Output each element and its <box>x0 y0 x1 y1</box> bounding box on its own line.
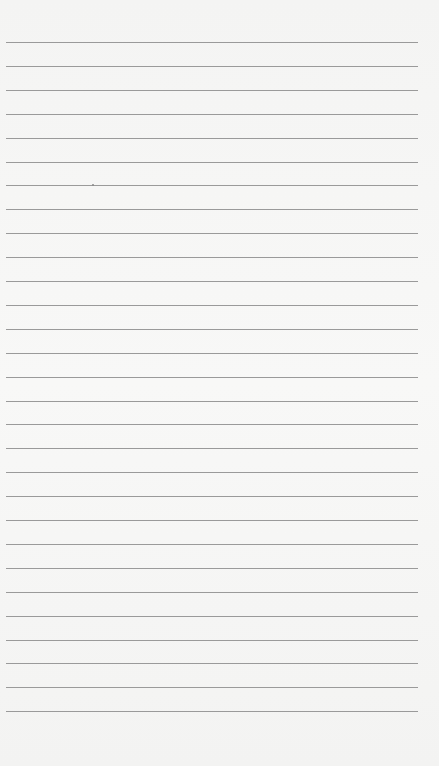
ruled-line <box>6 520 418 521</box>
ruled-line <box>6 472 418 473</box>
ruled-line <box>6 616 418 617</box>
ruled-line <box>6 209 418 210</box>
ruled-line <box>6 305 418 306</box>
ruled-line <box>6 568 418 569</box>
ruled-line <box>6 424 418 425</box>
ruled-line <box>6 640 418 641</box>
ruled-line <box>6 401 418 402</box>
ruled-line <box>6 90 418 91</box>
ruled-line <box>6 711 418 712</box>
ruled-line <box>6 329 418 330</box>
ruled-line <box>6 448 418 449</box>
ruled-line <box>6 185 418 186</box>
lined-paper-sheet <box>0 0 439 766</box>
ruled-line <box>6 66 418 67</box>
ruled-line <box>6 663 418 664</box>
ruled-line <box>6 592 418 593</box>
ruled-line <box>6 353 418 354</box>
ruled-line <box>6 377 418 378</box>
ruled-line <box>6 687 418 688</box>
ruled-line <box>6 233 418 234</box>
paper-speck <box>92 184 94 186</box>
ruled-line <box>6 162 418 163</box>
ruled-line <box>6 281 418 282</box>
ruled-line <box>6 544 418 545</box>
ruled-line <box>6 42 418 43</box>
ruled-line <box>6 114 418 115</box>
ruled-line <box>6 496 418 497</box>
ruled-line <box>6 257 418 258</box>
ruled-line <box>6 138 418 139</box>
